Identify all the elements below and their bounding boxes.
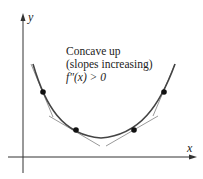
y-axis-arrow-icon — [21, 13, 26, 21]
point-2 — [73, 127, 79, 133]
point-3 — [131, 127, 137, 133]
point-4 — [161, 89, 167, 95]
y-axis — [21, 13, 26, 173]
x-axis — [8, 155, 197, 160]
tangency-points — [40, 89, 167, 133]
diagram-canvas — [0, 0, 203, 179]
concavity-diagram: y x Concave up (slopes increasing) f″(x)… — [0, 0, 203, 179]
y-axis-label: y — [28, 10, 33, 25]
annotation-line-3: f″(x) > 0 — [66, 71, 153, 84]
x-axis-label: x — [187, 141, 192, 156]
annotation: Concave up (slopes increasing) f″(x) > 0 — [66, 45, 153, 84]
point-1 — [40, 89, 46, 95]
annotation-line-2: (slopes increasing) — [66, 58, 153, 71]
annotation-line-1: Concave up — [66, 45, 153, 58]
